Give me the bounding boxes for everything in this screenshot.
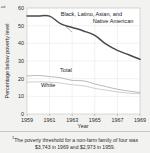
series-label-minority-line1: Black, Latino, Asian, and bbox=[61, 11, 122, 17]
y-tick-label: 30 bbox=[18, 58, 24, 64]
poverty-line-chart: 0102030405060 195919611963196519671969 P… bbox=[0, 0, 150, 131]
y-tick-label: 60 bbox=[18, 5, 24, 11]
x-tick-label: 1965 bbox=[89, 117, 101, 123]
y-tick-label: 40 bbox=[18, 40, 24, 46]
y-tick-label: 20 bbox=[18, 76, 24, 82]
x-tick-label: 1969 bbox=[134, 117, 146, 123]
x-axis-title: Year bbox=[78, 123, 89, 129]
chart-page: 0102030405060 195919611963196519671969 P… bbox=[0, 0, 150, 153]
chart-svg: 0102030405060 195919611963196519671969 P… bbox=[0, 0, 150, 131]
footnote-text: The poverty threshold for a non-farm fam… bbox=[14, 137, 138, 150]
x-tick-label: 1963 bbox=[66, 117, 78, 123]
series-label-minority-line2: Native American bbox=[93, 18, 134, 24]
series-label-total: Total bbox=[60, 67, 72, 73]
x-tick-label: 1961 bbox=[44, 117, 56, 123]
y-tick-label: 50 bbox=[18, 23, 24, 29]
y-tick-label: 10 bbox=[18, 93, 24, 99]
x-tick-label: 1967 bbox=[111, 117, 123, 123]
y-axis-title: Percentage below poverty level bbox=[4, 24, 10, 99]
footnote: 1The poverty threshold for a non-farm fa… bbox=[0, 131, 150, 153]
series-label-white: White bbox=[41, 82, 55, 88]
y-axis-title-footnote-marker: 1 bbox=[0, 6, 6, 9]
x-tick-label: 1959 bbox=[21, 117, 33, 123]
